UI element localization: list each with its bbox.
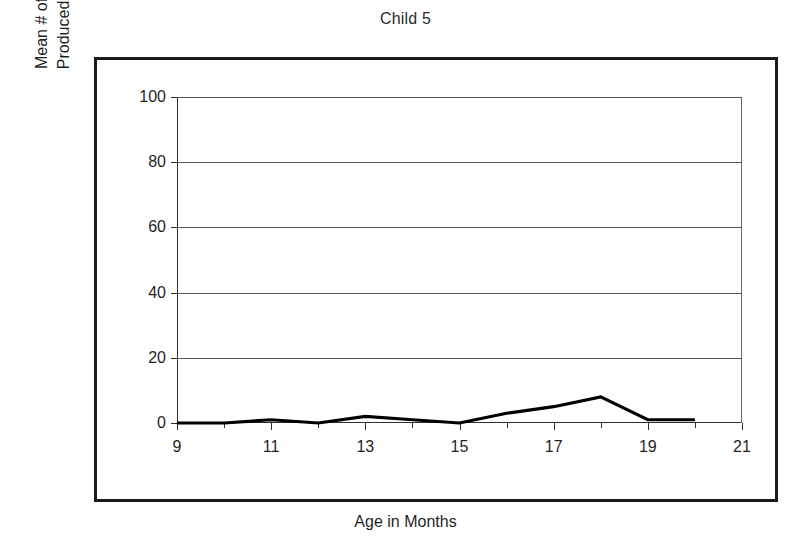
x-tick-mark-13 — [365, 423, 366, 430]
y-axis-title-prefix: Mean # of — [33, 0, 50, 69]
x-tick-label-21: 21 — [733, 438, 751, 456]
figure-container: Child 5 Mean # of New Words Produced Eac… — [0, 0, 811, 554]
y-axis-title-line-2: Produced Each Month — [53, 0, 75, 69]
data-line-child-5 — [177, 397, 695, 423]
x-tick-label-15: 15 — [451, 438, 469, 456]
x-tick-minor-14 — [412, 423, 413, 428]
x-tick-label-11: 11 — [263, 438, 280, 456]
x-tick-mark-21 — [742, 423, 743, 430]
y-tick-label-20: 20 — [148, 349, 166, 367]
y-tick-label-0: 0 — [157, 414, 166, 432]
plot-area: 020406080100 9111315171921 — [177, 97, 742, 423]
x-tick-mark-11 — [271, 423, 272, 430]
x-tick-minor-18 — [601, 423, 602, 428]
x-tick-label-13: 13 — [356, 438, 374, 456]
x-tick-minor-20 — [695, 423, 696, 428]
x-tick-mark-19 — [648, 423, 649, 430]
x-tick-minor-16 — [507, 423, 508, 428]
x-tick-label-17: 17 — [545, 438, 563, 456]
x-tick-label-19: 19 — [639, 438, 657, 456]
y-tick-label-60: 60 — [148, 218, 166, 236]
y-tick-label-40: 40 — [148, 284, 166, 302]
x-axis-title: Age in Months — [0, 513, 811, 531]
y-tick-label-80: 80 — [148, 153, 166, 171]
y-axis-title: Mean # of New Words Produced Each Month — [25, 0, 81, 153]
chart-title: Child 5 — [0, 10, 811, 28]
y-tick-label-100: 100 — [139, 88, 166, 106]
x-tick-label-9: 9 — [173, 438, 182, 456]
y-axis-title-line-1: Mean # of New Words — [31, 0, 53, 69]
data-series-svg — [177, 97, 742, 423]
x-tick-mark-17 — [554, 423, 555, 430]
